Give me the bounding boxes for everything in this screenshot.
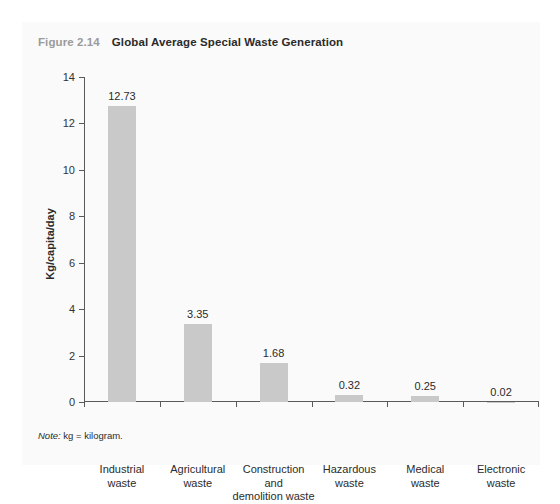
bar: [108, 106, 136, 402]
figure-note-text: kg = kilogram.: [61, 430, 123, 441]
bar-value-label: 0.02: [490, 386, 511, 402]
y-tick-label: 12: [63, 117, 75, 129]
chart-plot-inner: 02468101214 12.733.351.680.320.250.02: [84, 77, 539, 402]
x-tick-mark: [84, 402, 85, 407]
bar: [260, 363, 288, 402]
y-tick-label: 4: [69, 303, 75, 315]
y-tick-label: 0: [69, 396, 75, 408]
x-tick-mark: [160, 402, 161, 407]
y-tick-mark: [79, 170, 84, 171]
x-tick-mark: [463, 402, 464, 407]
y-tick-label: 10: [63, 164, 75, 176]
x-category-label-line: demolition waste: [226, 490, 322, 504]
y-tick-mark: [79, 263, 84, 264]
x-category-label: Electronicwaste: [453, 463, 549, 490]
bar-value-label: 0.25: [415, 380, 436, 396]
bar: [411, 396, 439, 402]
bar: [184, 324, 212, 402]
bar-value-label: 12.73: [108, 90, 136, 106]
x-tick-mark: [387, 402, 388, 407]
figure-title: Global Average Special Waste Generation: [112, 36, 343, 48]
figure-header: Figure 2.14 Global Average Special Waste…: [38, 36, 343, 48]
y-tick-label: 8: [69, 210, 75, 222]
x-category-label-line: Electronic: [453, 463, 549, 477]
figure-panel: Figure 2.14 Global Average Special Waste…: [22, 22, 540, 465]
y-tick-mark: [79, 356, 84, 357]
x-tick-mark: [236, 402, 237, 407]
y-tick-label: 6: [69, 257, 75, 269]
x-tick-mark: [538, 402, 539, 407]
y-axis-title: Kg/capita/day: [44, 208, 56, 280]
x-category-label-line: waste: [453, 477, 549, 491]
bar-value-label: 3.35: [187, 308, 208, 324]
bar-value-label: 0.32: [339, 379, 360, 395]
y-tick-label: 14: [63, 71, 75, 83]
figure-note: Note: kg = kilogram.: [38, 430, 123, 441]
y-tick-mark: [79, 309, 84, 310]
bar: [335, 395, 363, 402]
chart-plot-area: 02468101214 12.733.351.680.320.250.02 In…: [84, 77, 539, 402]
x-tick-mark: [312, 402, 313, 407]
figure-note-lead: Note:: [38, 430, 61, 441]
figure-number: Figure 2.14: [38, 36, 100, 48]
y-tick-label: 2: [69, 350, 75, 362]
y-tick-mark: [79, 123, 84, 124]
y-axis-line: [84, 77, 85, 402]
y-tick-mark: [79, 216, 84, 217]
bar-value-label: 1.68: [263, 347, 284, 363]
y-tick-mark: [79, 77, 84, 78]
